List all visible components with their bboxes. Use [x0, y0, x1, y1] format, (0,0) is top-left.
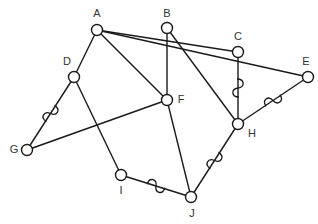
edge-d-i	[74, 77, 121, 175]
edge-f-j	[167, 100, 191, 197]
node-f	[162, 95, 173, 106]
edge-g-f	[27, 100, 167, 150]
edge-b-h	[167, 28, 238, 124]
node-label-h: H	[248, 127, 256, 139]
node-label-a: A	[93, 7, 101, 19]
node-label-b: B	[163, 7, 170, 19]
node-c	[233, 47, 244, 58]
edge-a-d	[74, 30, 97, 77]
node-j	[186, 192, 197, 203]
wavy-marker-i-j	[146, 178, 166, 193]
node-label-e: E	[302, 55, 309, 67]
node-d	[69, 72, 80, 83]
node-label-d: D	[63, 55, 71, 67]
node-label-g: G	[10, 143, 19, 155]
network-graph: ABCDEFGHIJ	[0, 0, 318, 224]
node-label-f: F	[178, 93, 185, 105]
wavy-marker-d-g	[41, 103, 59, 124]
node-a	[92, 25, 103, 36]
node-label-c: C	[234, 30, 242, 42]
wavy-marker-e-h	[263, 91, 284, 110]
edges-layer	[27, 28, 308, 197]
node-label-j: J	[189, 207, 195, 219]
node-b	[162, 23, 173, 34]
node-g	[22, 145, 33, 156]
node-label-i: I	[119, 184, 122, 196]
node-h	[233, 119, 244, 130]
wavy-marker-h-j	[205, 150, 223, 171]
node-e	[303, 72, 314, 83]
edge-a-e	[97, 30, 308, 77]
node-i	[116, 170, 127, 181]
edge-a-f	[97, 30, 167, 100]
